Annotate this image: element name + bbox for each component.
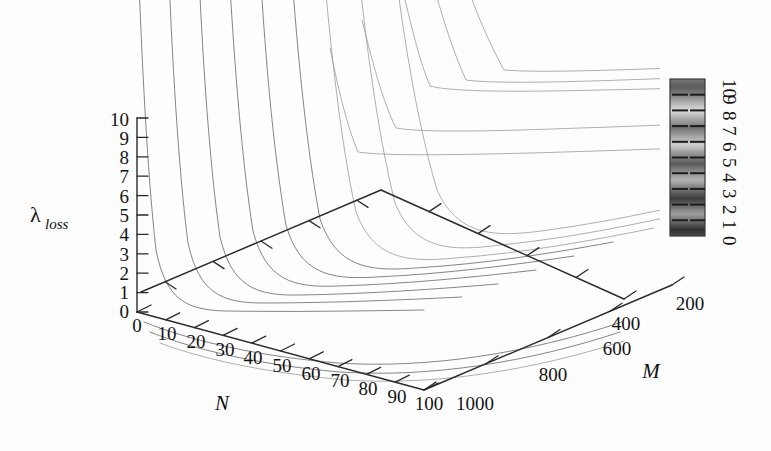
z-ticklabel-5: 5 (120, 205, 130, 226)
mesh-curve-m600 (259, 0, 574, 278)
x-axis-n: 0 10 20 30 40 50 60 70 80 90 100 N (132, 305, 443, 415)
x-ticklabel-80: 80 (359, 378, 378, 399)
y-ticklabel-200: 200 (676, 293, 705, 314)
y-axis-m: 1000 800 600 400 200 M (424, 277, 704, 414)
colorbar-label-5: 5 (719, 158, 740, 168)
y-ticklabel-1000: 1000 (456, 393, 494, 414)
y-ticklabel-800: 800 (539, 364, 568, 385)
colorbar-ticklabels: 10 9 8 7 6 5 4 3 2 1 0 (719, 79, 740, 246)
x-ticklabel-60: 60 (302, 363, 321, 384)
mesh-curve-m800 (198, 0, 498, 295)
x-ticklabel-0: 0 (132, 315, 142, 336)
colorbar-label-7: 7 (719, 126, 740, 136)
mesh-plateau-line-3 (470, 0, 771, 71)
z-ticklabel-3: 3 (120, 244, 130, 265)
colorbar-label-0: 0 (719, 236, 740, 246)
z-axis-title: λ loss (30, 202, 69, 232)
colorbar-label-6: 6 (719, 142, 740, 152)
z-ticklabel-0: 0 (120, 301, 130, 322)
x-ticklabel-20: 20 (187, 331, 206, 352)
z-ticklabel-6: 6 (120, 186, 130, 207)
colorbar[interactable]: 10 9 8 7 6 5 4 3 2 1 0 (670, 79, 740, 246)
colorbar-label-9: 9 (719, 95, 740, 105)
back-edge-right (381, 190, 624, 299)
x-ticklabel-100: 100 (415, 393, 444, 414)
z-ticklabel-4: 4 (120, 224, 130, 245)
back-edge-right-ticks (429, 204, 636, 299)
z-ticklabel-1: 1 (120, 282, 130, 303)
x-ticklabel-10: 10 (158, 323, 177, 344)
y-axis-title: M (641, 359, 661, 383)
z-axis-title-symbol: λ (30, 202, 41, 227)
colorbar-label-8: 8 (719, 111, 740, 121)
z-axis: 10 9 8 7 6 5 4 3 2 1 0 (110, 109, 148, 322)
z-ticklabel-2: 2 (120, 263, 130, 284)
x-ticklabel-90: 90 (388, 386, 407, 407)
y-ticklabel-600: 600 (603, 338, 632, 359)
figure-canvas: 10 9 8 7 6 5 4 3 2 1 0 λ loss (0, 0, 771, 451)
x-ticklabel-50: 50 (273, 355, 292, 376)
back-box-edges (141, 190, 636, 299)
z-ticklabel-8: 8 (120, 147, 130, 168)
x-ticklabel-30: 30 (216, 339, 235, 360)
colorbar-label-2: 2 (719, 205, 740, 215)
mesh-curve-m500 (290, 0, 613, 269)
mesh-ridge-line-1 (362, 20, 771, 131)
x-axis-ticks (137, 305, 438, 390)
mesh-curve-m300 (356, 0, 700, 248)
mesh-curve-m1000 (138, 0, 424, 311)
colorbar-label-4: 4 (719, 173, 740, 183)
mesh-curve-m900 (168, 0, 462, 303)
surface-plot-3d: 10 9 8 7 6 5 4 3 2 1 0 λ loss (0, 0, 771, 451)
colorbar-label-1: 1 (719, 220, 740, 230)
colorbar-label-3: 3 (719, 189, 740, 199)
x-ticklabel-40: 40 (244, 347, 263, 368)
y-ticklabel-400: 400 (612, 313, 641, 334)
z-ticklabel-7: 7 (120, 166, 130, 187)
mesh-plateau-line-1 (404, 0, 771, 91)
z-ticklabel-10: 10 (110, 109, 129, 130)
z-axis-title-subscript: loss (45, 216, 69, 232)
x-ticklabel-70: 70 (331, 370, 350, 391)
z-ticklabel-9: 9 (120, 128, 130, 149)
z-axis-ticks (137, 118, 148, 312)
x-axis-title: N (214, 391, 230, 415)
